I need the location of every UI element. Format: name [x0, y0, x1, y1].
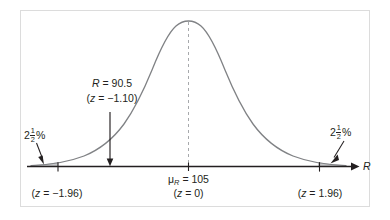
right-tail-percent-label: 212%	[330, 124, 351, 140]
left-tail-percent-label: 212%	[24, 127, 45, 143]
left-tail-pointer-arrowhead-icon	[38, 156, 44, 165]
axis-arrowhead-icon	[351, 163, 360, 171]
annotation-value-label: R = 90.5	[92, 77, 132, 90]
right-tail-pointer-shaft	[334, 141, 344, 158]
right-critical-z-label: (z = 1.96)	[298, 187, 343, 200]
axis-label-r: R	[363, 160, 371, 173]
annotation-z-label: (z = −1.10)	[87, 92, 138, 105]
annotation-arrowhead-icon	[107, 158, 114, 166]
left-critical-z-label: (z = −1.96)	[32, 187, 83, 200]
normal-distribution-figure: R = 90.5 (z = −1.10) 212% 212% R μR = 10…	[0, 0, 390, 220]
mean-z-label: (z = 0)	[173, 187, 203, 200]
